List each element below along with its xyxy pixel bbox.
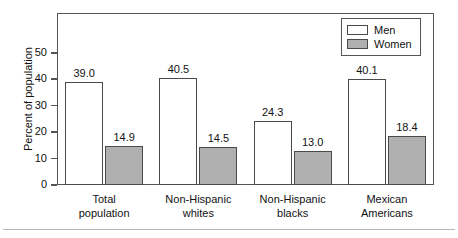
chart-legend: Men Women [341, 18, 421, 56]
bar-women-2 [199, 147, 237, 185]
bar-value-label: 18.4 [382, 121, 432, 133]
group-label-2: Non-Hispanicwhites [151, 192, 245, 220]
bar-men-3 [254, 121, 292, 185]
y-tick-mark [51, 184, 57, 186]
y-tick-mark [51, 78, 57, 80]
bar-men-2 [159, 78, 197, 185]
bar-women-4 [388, 136, 426, 185]
bar-value-label: 39.0 [59, 67, 109, 79]
bar-value-label: 13.0 [288, 136, 338, 148]
y-tick-label: 20 [14, 125, 47, 137]
bar-men-4 [348, 79, 386, 185]
bar-value-label: 40.5 [153, 63, 203, 75]
y-tick-label: 50 [14, 46, 47, 58]
bar-value-label: 40.1 [342, 64, 392, 76]
white-swatch-icon [347, 25, 368, 35]
group-label-1: Totalpopulation [57, 192, 151, 220]
group-label-line1: Total [93, 193, 116, 205]
bar-value-label: 14.5 [193, 132, 243, 144]
y-tick-label: 0 [14, 178, 47, 190]
group-label-line1: Non-Hispanic [165, 193, 231, 205]
group-label-line1: Non-Hispanic [260, 193, 326, 205]
bar-men-1 [65, 82, 103, 185]
y-tick-label: 40 [14, 72, 47, 84]
group-label-line1: Mexican [366, 193, 407, 205]
group-label-4: MexicanAmericans [340, 192, 434, 220]
legend-label-men: Men [374, 24, 395, 36]
group-label-line2: whites [151, 206, 245, 220]
group-label-line2: population [57, 206, 151, 220]
legend-item-women: Women [347, 37, 412, 51]
legend-item-men: Men [347, 23, 412, 37]
bar-value-label: 14.9 [99, 131, 149, 143]
group-label-3: Non-Hispanicblacks [246, 192, 340, 220]
y-tick-mark [51, 52, 57, 54]
legend-label-women: Women [374, 38, 412, 50]
bar-chart-figure: Percent of population 01020304050 39.014… [0, 0, 458, 238]
bar-value-label: 24.3 [248, 106, 298, 118]
group-label-line2: Americans [340, 206, 434, 220]
bottom-divider [3, 229, 455, 230]
y-tick-mark [51, 158, 57, 160]
group-label-line2: blacks [246, 206, 340, 220]
bar-women-1 [105, 146, 143, 185]
y-tick-mark [51, 131, 57, 133]
gray-swatch-icon [347, 39, 368, 49]
y-tick-mark [51, 105, 57, 107]
bar-women-3 [294, 151, 332, 185]
y-tick-label: 30 [14, 99, 47, 111]
y-tick-label: 10 [14, 152, 47, 164]
